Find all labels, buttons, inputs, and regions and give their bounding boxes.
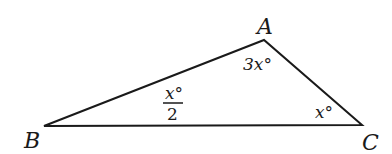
triangle-diagram: A B C 3x° x° 2 x°: [0, 0, 392, 154]
angle-label-a: 3x°: [243, 54, 272, 74]
angle-label-b: x° 2: [163, 83, 183, 124]
angle-b-numerator: x°: [165, 83, 183, 103]
vertex-label-a: A: [255, 14, 273, 39]
vertex-label-c: C: [362, 130, 379, 154]
angle-b-denominator: 2: [167, 104, 178, 124]
angle-label-c: x°: [315, 102, 333, 122]
vertex-label-b: B: [23, 128, 40, 153]
